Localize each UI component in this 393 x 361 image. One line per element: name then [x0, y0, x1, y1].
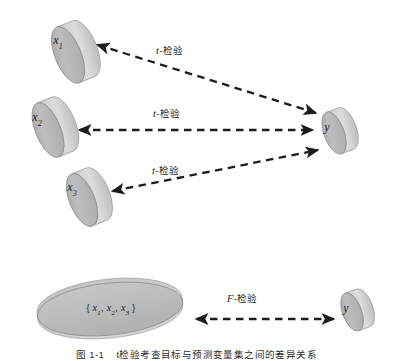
node-x3 [60, 163, 119, 230]
caption-text: t检验考查目标与预测变量集之间的差异关系 [116, 349, 317, 360]
caption-number: 图 1-1 [76, 349, 104, 360]
arrow-x1-y [98, 45, 316, 113]
node-set-all [34, 272, 185, 346]
node-y-top [317, 104, 363, 157]
figure-caption: 图 1-1 t检验考查目标与预测变量集之间的差异关系 [0, 348, 393, 361]
diagram-canvas [0, 0, 393, 361]
node-x1 [45, 16, 107, 88]
node-y-bottom [336, 286, 379, 334]
arrow-x3-y [113, 150, 318, 191]
figure-container: x1 x2 x3 y y { x1, x2, x3 } t-检验 t-检验 [0, 0, 393, 361]
node-x2 [26, 92, 86, 161]
